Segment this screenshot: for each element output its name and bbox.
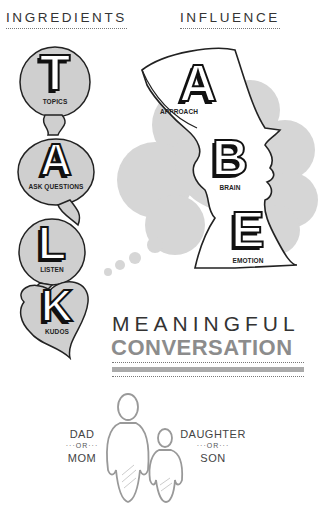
dad-text: DAD	[60, 428, 104, 440]
influence-header: INFLUENCE	[180, 10, 280, 29]
label-approach: APPROACH	[160, 108, 228, 115]
letter-e: E	[218, 206, 278, 254]
divider-dotted-bottom	[112, 376, 304, 377]
letter-l: L	[17, 220, 87, 266]
divider-bar	[112, 367, 304, 372]
letter-b: B	[200, 134, 260, 182]
label-brain: BRAIN	[200, 184, 260, 191]
mom-text: MOM	[60, 452, 104, 464]
label-topics: TOPICS	[20, 98, 90, 105]
letter-a: A	[18, 138, 94, 182]
letter-t: T	[20, 48, 90, 98]
label-listen: LISTEN	[17, 266, 87, 273]
meaningful-text: MEANINGFUL	[112, 312, 300, 336]
abe-item-emotion: E EMOTION	[218, 206, 278, 264]
daughter-text: DAUGHTER	[178, 428, 248, 440]
letter-k: K	[22, 284, 92, 328]
parent-label: DAD ···OR··· MOM	[60, 428, 104, 464]
ingredients-header: INGREDIENTS	[6, 10, 127, 29]
label-emotion: EMOTION	[218, 257, 278, 264]
or-separator-left: ···OR···	[60, 440, 104, 452]
letter-a-approach: A	[168, 58, 228, 108]
label-kudos: KUDOS	[22, 328, 92, 335]
talk-item-ask-questions: A ASK QUESTIONS	[18, 138, 94, 190]
talk-item-listen: L LISTEN	[17, 220, 87, 273]
abe-item-brain: B BRAIN	[200, 134, 260, 191]
label-ask-questions: ASK QUESTIONS	[18, 183, 94, 190]
conversation-text: CONVERSATION	[111, 335, 293, 361]
son-text: SON	[178, 452, 248, 464]
talk-item-kudos: K KUDOS	[22, 284, 92, 335]
abe-item-approach: A APPROACH	[168, 58, 228, 115]
talk-item-topics: T TOPICS	[20, 48, 90, 105]
or-separator-right: ···OR···	[178, 440, 248, 452]
divider-dotted-top	[112, 362, 304, 363]
child-label: DAUGHTER ···OR··· SON	[178, 428, 248, 464]
